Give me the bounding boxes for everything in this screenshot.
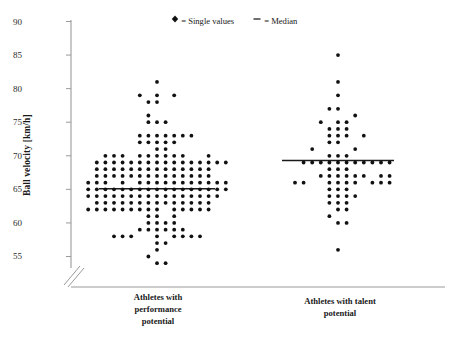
y-tick-label-90: 90 — [0, 17, 22, 27]
category-label-performance-line2: performance — [96, 304, 220, 316]
diamond-icon — [171, 15, 179, 25]
category-label-talent-line2: potential — [272, 308, 408, 320]
y-tick-label-70: 70 — [0, 151, 22, 161]
y-tick-label-85: 85 — [0, 50, 22, 60]
y-tick-label-80: 80 — [0, 84, 22, 94]
dash-icon — [253, 15, 262, 25]
y-tick-label-75: 75 — [0, 117, 22, 127]
y-tick-label-65: 65 — [0, 184, 22, 194]
dot-plot-figure: Ball velocity [km/h] 90 85 80 75 70 65 6… — [0, 0, 452, 341]
y-tick-label-60: 60 — [0, 218, 22, 228]
category-label-talent: Athletes with talent potential — [272, 296, 408, 320]
category-label-performance-line3: potential — [96, 316, 220, 328]
dot-cloud-performance — [86, 80, 227, 265]
legend-label-single-values: = Single values — [181, 16, 234, 26]
legend-item-median: = Median — [253, 15, 297, 26]
y-axis-ticks — [66, 22, 71, 257]
median-lines — [99, 160, 394, 188]
category-label-performance: Athletes with performance potential — [96, 292, 220, 328]
category-label-talent-line1: Athletes with talent — [272, 296, 408, 308]
axis-break-icon — [64, 266, 84, 287]
y-axis-title: Ball velocity [km/h] — [22, 114, 32, 196]
plot-canvas — [0, 0, 452, 341]
category-label-performance-line1: Athletes with — [96, 292, 220, 304]
legend-item-single-values: = Single values — [171, 15, 234, 26]
legend-label-median: = Median — [264, 16, 297, 26]
dot-cloud-talent — [293, 53, 391, 252]
y-tick-label-55: 55 — [0, 251, 22, 261]
